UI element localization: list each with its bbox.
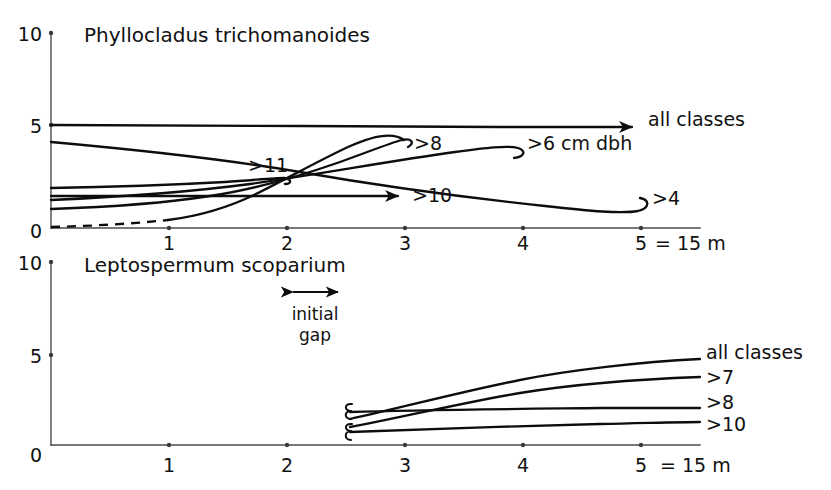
top-x-tick-5 [639,226,643,230]
initial-gap-label-line1: initial [292,304,339,324]
bottom-y-tick-10 [49,260,53,264]
bottom-x-label-2: 2 [281,454,293,476]
bottom-x-label-1: 1 [163,454,175,476]
top-x-axis-note: = 15 m [655,232,726,254]
bottom-y-tick-5 [49,353,53,357]
bottom-label-all-classes: all classes [706,341,803,363]
top-label-all-classes: all classes [648,108,745,130]
initial-gap-label-line2: gap [299,325,331,345]
top-label-gt8: >8 [414,132,442,154]
top-x-label-1: 1 [163,232,175,254]
top-curve-dashed-start [51,220,168,227]
bottom-y-label-0: 0 [30,444,42,466]
bottom-label-gt10: >10 [706,413,746,435]
top-x-label-3: 3 [399,232,411,254]
bottom-y-label-10: 10 [18,252,42,274]
top-y-label-10: 10 [18,23,42,45]
bottom-x-tick-2 [285,443,289,447]
bottom-curve-gt10 [350,422,700,432]
top-x-tick-4 [521,226,525,230]
top-label-gt11: >11 [248,154,288,176]
top-curve-gt8 [51,140,412,209]
top-chart: 10 5 0 1 2 3 4 5 = 15 m Phyllocladus tri… [18,23,745,254]
top-x-tick-1 [167,226,171,230]
top-y-tick-10 [49,31,53,35]
bottom-curve-gt7 [350,377,700,427]
top-x-label-5: 5 [635,232,647,254]
bottom-curve-gt8 [350,408,700,412]
bottom-y-label-5: 5 [30,345,42,367]
bottom-x-tick-4 [521,443,525,447]
bottom-label-gt8: >8 [706,391,734,413]
figure-root: 10 5 0 1 2 3 4 5 = 15 m Phyllocladus tri… [0,0,831,490]
top-x-label-4: 4 [517,232,529,254]
bottom-label-gt7: >7 [706,366,734,388]
top-label-gt6: >6 cm dbh [527,132,632,154]
top-label-gt4: >4 [652,187,680,209]
figure-canvas: 10 5 0 1 2 3 4 5 = 15 m Phyllocladus tri… [0,0,831,490]
bottom-x-label-5: 5 [635,454,647,476]
bottom-chart-title: Leptospermum scoparium [84,253,346,277]
top-x-tick-3 [403,226,407,230]
top-chart-title: Phyllocladus trichomanoides [84,23,370,47]
top-y-label-5: 5 [30,115,42,137]
top-y-label-0: 0 [30,220,42,242]
bottom-x-tick-1 [167,443,171,447]
top-x-label-2: 2 [281,232,293,254]
top-x-tick-2 [285,226,289,230]
bottom-x-label-3: 3 [399,454,411,476]
bottom-x-tick-5 [639,443,643,447]
bottom-x-axis-note: = 15 m [660,454,731,476]
bottom-x-label-4: 4 [517,454,529,476]
bottom-chart: 10 5 0 1 2 3 4 5 = 15 m Leptospermum sco… [18,252,803,476]
top-curve-all-classes [51,125,632,127]
top-curve-rising-branch [168,135,404,220]
bottom-x-tick-3 [403,443,407,447]
top-label-gt10: >10 [412,184,452,206]
